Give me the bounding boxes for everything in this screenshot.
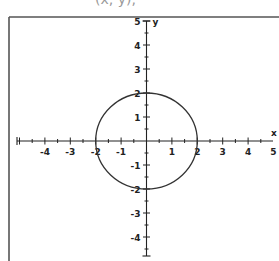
x-tick-label: 4 [245, 147, 251, 157]
y-tick-label: -1 [131, 161, 141, 171]
cut-off-header-text: (x, y), [95, 0, 136, 7]
circle-plot: (x, y), -4-3-2-11234554321-1-2-3-4 x y [0, 0, 279, 261]
y-tick-label: -4 [131, 233, 141, 243]
tick-labels: -4-3-2-11234554321-1-2-3-4 [40, 17, 277, 243]
plot-frame [9, 17, 279, 261]
y-tick-label: -3 [131, 209, 141, 219]
x-tick-label: 5 [270, 147, 276, 157]
y-axis-label: y [153, 17, 159, 27]
y-tick-label: 3 [134, 65, 140, 75]
y-tick-label: 5 [134, 17, 140, 27]
x-axis-label: x [271, 128, 277, 138]
y-tick-label: 4 [134, 41, 140, 51]
x-tick-label: 1 [169, 147, 175, 157]
x-tick-label: -4 [40, 147, 50, 157]
y-tick-label: -2 [131, 185, 141, 195]
x-tick-label: -1 [116, 147, 126, 157]
x-tick-label: 3 [220, 147, 226, 157]
y-tick-label: 1 [134, 113, 140, 123]
axes [17, 21, 273, 256]
x-tick-label: -3 [65, 147, 75, 157]
